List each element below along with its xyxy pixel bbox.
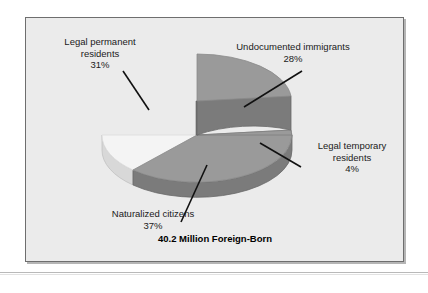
footer-rule-secondary xyxy=(0,274,428,275)
slice-value-undocumented: 28% xyxy=(222,53,364,65)
slice-label-legal-temporary-residents: Legal temporary residents 4% xyxy=(300,140,404,175)
slice-value-legal-permanent: 31% xyxy=(42,59,158,71)
footer-rule xyxy=(0,272,428,273)
slice-label-line2: residents xyxy=(81,48,120,59)
slice-label-undocumented-immigrants: Undocumented immigrants 28% xyxy=(222,41,364,64)
chart-caption: 40.2 Million Foreign-Born xyxy=(60,233,370,244)
slice-label-line1: Legal temporary xyxy=(318,140,387,151)
slice-label-naturalized-citizens: Naturalized citizens 37% xyxy=(82,208,224,231)
leader-line-legal-permanent xyxy=(123,71,149,110)
slice-label-line1: Legal permanent xyxy=(64,36,135,47)
slice-value-legal-temporary: 4% xyxy=(300,163,404,175)
slice-label-line2: residents xyxy=(333,152,372,163)
slice-label-line1: Undocumented immigrants xyxy=(236,41,350,52)
slice-label-legal-permanent-residents: Legal permanent residents 31% xyxy=(42,36,158,71)
slice-label-line1: Naturalized citizens xyxy=(112,208,194,219)
slice-value-naturalized: 37% xyxy=(82,220,224,232)
